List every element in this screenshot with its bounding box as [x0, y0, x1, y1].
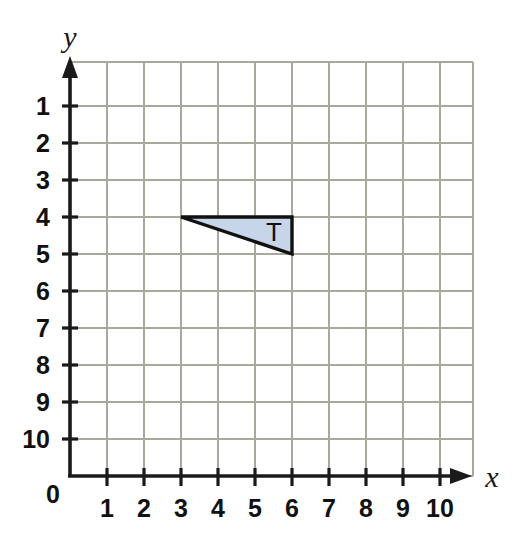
- origin-label: 0: [46, 480, 60, 508]
- grid-lines: [70, 62, 473, 476]
- y-tick-label-3: 3: [36, 166, 50, 194]
- x-tick-label-2: 2: [137, 494, 151, 522]
- x-tick-label-6: 6: [285, 494, 299, 522]
- coordinate-plane-svg: 10 9 8 7 6 5 4 3 2 1 0 1 2 3 4 5 6 7 8 9…: [0, 0, 529, 542]
- y-tick-label-6: 6: [36, 277, 50, 305]
- y-tick-label-7: 7: [36, 314, 50, 342]
- x-tick-label-1: 1: [100, 494, 114, 522]
- x-tick-label-10: 10: [426, 494, 454, 522]
- x-tick-label-4: 4: [211, 494, 225, 522]
- x-tick-label-8: 8: [359, 494, 373, 522]
- x-tick-label-9: 9: [396, 494, 410, 522]
- y-tick-label-9: 9: [36, 388, 50, 416]
- y-axis-label: y: [60, 20, 77, 53]
- y-tick-label-2: 2: [36, 129, 50, 157]
- x-tick-label-7: 7: [322, 494, 336, 522]
- y-axis-arrowhead: [62, 56, 78, 78]
- y-tick-label-4: 4: [36, 203, 50, 231]
- coordinate-grid-figure: 10 9 8 7 6 5 4 3 2 1 0 1 2 3 4 5 6 7 8 9…: [0, 0, 529, 542]
- y-tick-label-5: 5: [36, 240, 50, 268]
- y-tick-label-8: 8: [36, 351, 50, 379]
- x-tick-label-5: 5: [248, 494, 262, 522]
- x-axis-arrowhead: [450, 468, 472, 484]
- x-axis-label: x: [484, 460, 499, 493]
- triangle-t-label: T: [266, 217, 282, 247]
- x-tick-label-3: 3: [174, 494, 188, 522]
- axis-lines: [68, 68, 458, 476]
- y-tick-label-1: 1: [36, 92, 50, 120]
- y-tick-label-10: 10: [22, 425, 50, 453]
